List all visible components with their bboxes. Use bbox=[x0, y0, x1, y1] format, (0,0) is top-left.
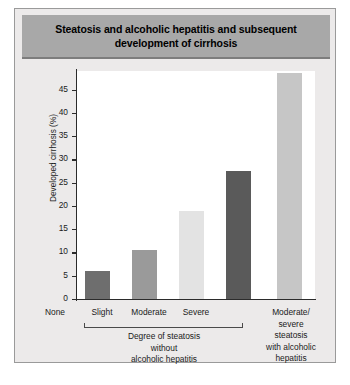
group1-line2: without bbox=[70, 343, 258, 355]
y-tick-mark-20 bbox=[72, 206, 77, 207]
x-group-bracket bbox=[84, 323, 243, 328]
bar-moderate bbox=[179, 211, 204, 299]
y-tick-label-35: 35 bbox=[59, 130, 68, 140]
group2-line4: with alcoholic bbox=[251, 342, 331, 354]
chart-plot-wrapper: Developed cirrhosis (%) 0510152025303540… bbox=[22, 61, 330, 357]
x-group-caption-without-hepatitis: Degree of steatosis without alcoholic he… bbox=[70, 331, 258, 366]
group1-line3: alcoholic hepatitis bbox=[70, 354, 258, 366]
group2-line2: severe bbox=[251, 319, 331, 331]
bar-none bbox=[85, 271, 110, 299]
y-tick-mark-45 bbox=[72, 90, 77, 91]
y-tick-mark-5 bbox=[72, 276, 77, 277]
y-tick-label-10: 10 bbox=[59, 246, 68, 256]
y-tick-label-30: 30 bbox=[59, 153, 68, 163]
y-tick-mark-10 bbox=[72, 252, 77, 253]
y-axis-title: Developed cirrhosis (%) bbox=[48, 83, 58, 233]
group2-line3: steatosis bbox=[251, 330, 331, 342]
bar-slight bbox=[132, 250, 157, 299]
y-tick-label-20: 20 bbox=[59, 200, 68, 210]
group2-line5: hepatitis bbox=[251, 353, 331, 365]
chart-title-banner: Steatosis and alcoholic hepatitis and su… bbox=[22, 15, 330, 59]
y-tick-mark-0 bbox=[72, 299, 77, 300]
group1-line1: Degree of steatosis bbox=[70, 331, 258, 343]
y-tick-label-15: 15 bbox=[59, 223, 68, 233]
y-tick-label-45: 45 bbox=[59, 84, 68, 94]
y-tick-mark-30 bbox=[72, 159, 77, 160]
group2-line1: Moderate/ bbox=[251, 307, 331, 319]
x-group-caption-with-hepatitis: Moderate/ severe steatosis with alcoholi… bbox=[251, 307, 331, 365]
y-tick-label-40: 40 bbox=[59, 107, 68, 117]
y-tick-label-5: 5 bbox=[63, 270, 68, 280]
x-label-severe: Severe bbox=[161, 307, 231, 317]
bar-moderate-severe-with-hepatitis bbox=[277, 73, 302, 299]
bar-severe bbox=[226, 171, 251, 299]
plot-area bbox=[77, 71, 315, 299]
x-axis-line bbox=[76, 299, 316, 300]
y-tick-mark-15 bbox=[72, 229, 77, 230]
figure-panel: Steatosis and alcoholic hepatitis and su… bbox=[14, 8, 336, 363]
page-title: Steatosis and alcoholic hepatitis and su… bbox=[22, 22, 330, 50]
y-tick-mark-40 bbox=[72, 113, 77, 114]
y-axis-line bbox=[76, 69, 77, 301]
y-tick-mark-25 bbox=[72, 183, 77, 184]
y-tick-mark-35 bbox=[72, 136, 77, 137]
y-tick-label-0: 0 bbox=[63, 293, 68, 303]
y-tick-label-25: 25 bbox=[59, 177, 68, 187]
